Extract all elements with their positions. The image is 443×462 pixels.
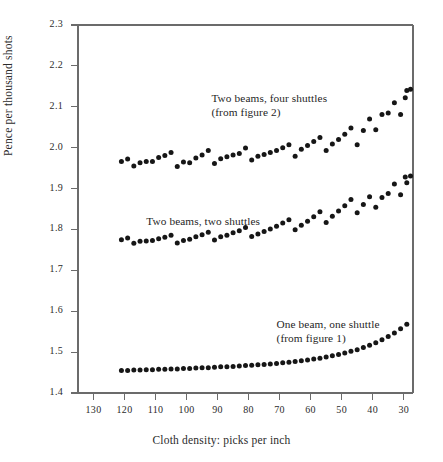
- data-point: [342, 350, 347, 355]
- data-point: [255, 231, 260, 236]
- data-point: [404, 180, 409, 185]
- series-label-source: (from figure 1): [277, 331, 380, 345]
- data-point: [373, 205, 378, 210]
- y-tick-label: 1.8: [29, 222, 63, 233]
- data-point: [131, 241, 136, 246]
- data-point: [367, 194, 372, 199]
- data-point: [212, 365, 217, 370]
- data-point: [293, 227, 298, 232]
- data-point: [280, 220, 285, 225]
- data-point: [200, 153, 205, 158]
- x-tick-label: 110: [141, 404, 171, 415]
- x-tick-label: 80: [234, 404, 264, 415]
- data-point: [361, 128, 366, 133]
- x-tick-label: 100: [172, 404, 202, 415]
- series-label-name: One beam, one shuttle: [277, 318, 380, 330]
- data-point: [355, 347, 360, 352]
- scatter-plot-canvas: [0, 0, 443, 462]
- data-point: [311, 139, 316, 144]
- data-point: [206, 148, 211, 153]
- data-point: [150, 238, 155, 243]
- data-point: [293, 359, 298, 364]
- y-tick-label: 1.7: [29, 263, 63, 274]
- data-point: [231, 230, 236, 235]
- y-tick-label: 1.4: [29, 386, 63, 397]
- data-point: [317, 135, 322, 140]
- data-point: [218, 156, 223, 161]
- series-label-name: Two beams, two shuttles: [146, 215, 260, 227]
- x-tick-label: 90: [203, 404, 233, 415]
- series-1: [119, 173, 413, 245]
- series-label-1: Two beams, two shuttles: [146, 214, 260, 228]
- data-point: [156, 236, 161, 241]
- data-point: [150, 367, 155, 372]
- data-point: [181, 238, 186, 243]
- data-point: [330, 214, 335, 219]
- data-point: [255, 362, 260, 367]
- data-point: [367, 117, 372, 122]
- data-point: [224, 154, 229, 159]
- series-label-source: (from figure 2): [211, 105, 327, 119]
- data-point: [286, 360, 291, 365]
- data-point: [200, 365, 205, 370]
- data-point: [237, 151, 242, 156]
- y-tick-label: 2.3: [29, 18, 63, 29]
- data-point: [311, 357, 316, 362]
- data-point: [119, 368, 124, 373]
- data-point: [324, 148, 329, 153]
- data-point: [386, 334, 391, 339]
- x-tick-label: 70: [265, 404, 295, 415]
- data-point: [392, 330, 397, 335]
- data-point: [144, 238, 149, 243]
- data-point: [336, 209, 341, 214]
- data-point: [268, 150, 273, 155]
- y-tick-label: 1.6: [29, 304, 63, 315]
- data-point: [175, 240, 180, 245]
- data-point: [125, 236, 130, 241]
- data-point: [324, 355, 329, 360]
- data-point: [138, 239, 143, 244]
- data-point: [224, 364, 229, 369]
- data-point: [262, 152, 267, 157]
- data-point: [212, 161, 217, 166]
- data-point: [206, 230, 211, 235]
- data-point: [169, 233, 174, 238]
- data-point: [218, 364, 223, 369]
- data-point: [336, 352, 341, 357]
- data-point: [293, 154, 298, 159]
- data-point: [274, 224, 279, 229]
- data-point: [274, 361, 279, 366]
- data-point: [169, 366, 174, 371]
- data-point: [299, 147, 304, 152]
- data-point: [193, 234, 198, 239]
- data-point: [330, 141, 335, 146]
- data-point: [144, 159, 149, 164]
- chart-figure: Pence per thousand shots Cloth density: …: [0, 0, 443, 462]
- data-point: [243, 146, 248, 151]
- data-point: [249, 363, 254, 368]
- series-label-0: Two beams, four shuttles(from figure 2): [211, 91, 327, 119]
- data-point: [187, 237, 192, 242]
- series-label-2: One beam, one shuttle(from figure 1): [277, 317, 380, 345]
- data-point: [305, 219, 310, 224]
- data-point: [138, 368, 143, 373]
- data-point: [193, 155, 198, 160]
- data-point: [212, 238, 217, 243]
- x-tick-label: 130: [79, 404, 109, 415]
- data-point: [255, 154, 260, 159]
- x-tick-label: 40: [358, 404, 388, 415]
- data-point: [286, 217, 291, 222]
- data-point: [156, 155, 161, 160]
- data-point: [162, 235, 167, 240]
- data-point: [317, 356, 322, 361]
- data-point: [262, 229, 267, 234]
- data-point: [206, 365, 211, 370]
- data-point: [218, 234, 223, 239]
- data-point: [125, 157, 130, 162]
- data-point: [403, 95, 408, 100]
- data-point: [119, 237, 124, 242]
- data-point: [348, 349, 353, 354]
- data-point: [336, 137, 341, 142]
- data-point: [125, 368, 130, 373]
- data-point: [373, 127, 378, 132]
